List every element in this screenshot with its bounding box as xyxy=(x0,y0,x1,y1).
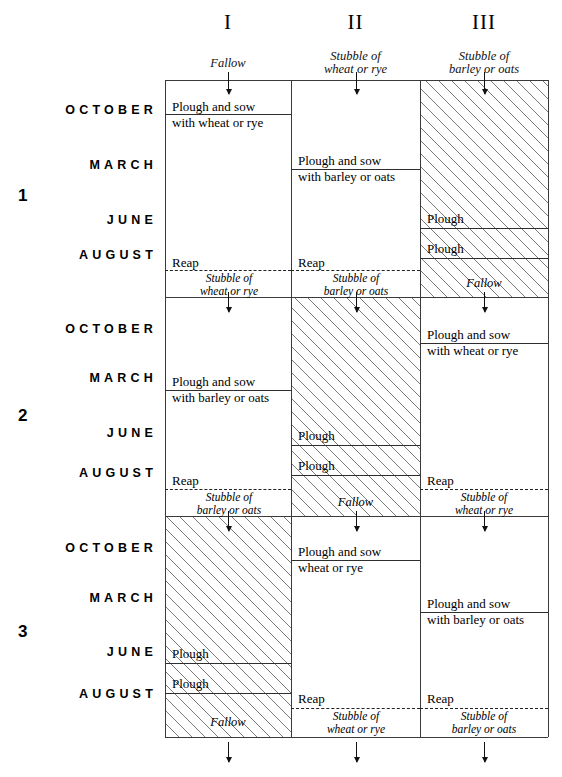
operation-y1-col3-june-plough: Plough xyxy=(427,211,464,226)
operation-y2-col3-october-line2: with wheat or rye xyxy=(427,343,518,359)
reap-dash-y2-col3 xyxy=(420,489,548,490)
operation-y3-col1-june-plough: Plough xyxy=(172,646,209,661)
state-y3-col1-fallow: Fallow xyxy=(165,715,291,730)
fallow-block-y2-col2 xyxy=(291,297,420,516)
operation-y1-col2-reap: Reap xyxy=(298,255,325,270)
rotation-diagram: I II III Fallow Stubble of wheat or rye … xyxy=(0,0,562,777)
column-header-3: III xyxy=(420,10,548,35)
operation-y1-col3-august-plough: Plough xyxy=(427,241,464,256)
operation-y2-col2-june-plough: Plough xyxy=(298,428,335,443)
operation-y2-col3-reap: Reap xyxy=(427,473,454,488)
flow-arrow-bottom-col1 xyxy=(228,742,229,762)
stubble-y3-col3-line1: Stubble of xyxy=(424,710,544,723)
flow-arrow-y1-y2-col3 xyxy=(484,292,485,312)
month-label-y3-august: AUGUST xyxy=(0,687,157,701)
operation-y2-col2-august-plough: Plough xyxy=(298,458,335,473)
column-initial-state-1-line1: Fallow xyxy=(165,57,291,70)
rule-y2-col2-june xyxy=(291,445,420,446)
reap-dash-y1-col2 xyxy=(291,270,420,271)
rule-y3-col2-october xyxy=(291,560,420,561)
operation-y3-col3-march-line1: Plough and sow xyxy=(427,596,524,612)
flow-arrow-y2-y3-col2 xyxy=(356,511,357,531)
flow-arrow-y1-y2-col2 xyxy=(356,292,357,312)
stubble-y2-col1-line1: Stubble of xyxy=(170,491,288,504)
reap-dash-y3-col2 xyxy=(291,708,420,709)
month-label-y2-june: JUNE xyxy=(0,426,157,440)
flow-arrow-y1-y2-col1 xyxy=(228,292,229,312)
month-label-y2-october: OCTOBER xyxy=(0,322,157,336)
column-initial-state-1: Fallow xyxy=(165,57,291,70)
rule-y2-col1-march xyxy=(165,390,291,391)
operation-y2-col1-march-line2: with barley or oats xyxy=(172,390,269,406)
flow-arrow-y2-y3-col3 xyxy=(484,511,485,531)
operation-y3-col2-october-line1: Plough and sow xyxy=(298,544,381,560)
operation-y1-col1-october: Plough and sow with wheat or rye xyxy=(172,99,263,131)
operation-y2-col1-march-line1: Plough and sow xyxy=(172,374,269,390)
stubble-y3-col2-line1: Stubble of xyxy=(296,710,416,723)
operation-y3-col3-march-line2: with barley or oats xyxy=(427,612,524,628)
grid-divider-col2-col3 xyxy=(420,80,421,737)
month-label-y2-august: AUGUST xyxy=(0,466,157,480)
rule-y1-col2-march xyxy=(291,169,420,170)
stubble-y3-col2-line2: wheat or rye xyxy=(296,723,416,736)
stubble-y2-col3-line1: Stubble of xyxy=(424,491,544,504)
month-label-y3-october: OCTOBER xyxy=(0,541,157,555)
operation-y3-col2-october-line2: wheat or rye xyxy=(298,560,381,576)
operation-y1-col1-october-line2: with wheat or rye xyxy=(172,115,263,131)
rule-y1-col3-august xyxy=(420,258,548,259)
stubble-y1-col1: Stubble of wheat or rye xyxy=(170,272,288,297)
operation-y1-col2-march-line1: Plough and sow xyxy=(298,153,395,169)
rule-y1-col3-june xyxy=(420,228,548,229)
stubble-y2-col1: Stubble of barley or oats xyxy=(170,491,288,516)
stubble-y3-col3: Stubble of barley or oats xyxy=(424,710,544,735)
month-label-y1-august: AUGUST xyxy=(0,248,157,262)
rule-y3-col3-march xyxy=(420,612,548,613)
flow-arrow-bottom-col2 xyxy=(356,742,357,762)
year-number-1: 1 xyxy=(18,186,27,206)
grid-left-border xyxy=(165,80,166,737)
fallow-block-y1-col3 xyxy=(420,80,548,297)
flow-arrow-bottom-col3 xyxy=(484,742,485,762)
column-header-1: I xyxy=(165,10,291,35)
operation-y1-col1-october-line1: Plough and sow xyxy=(172,99,263,115)
rule-y2-col3-october xyxy=(420,343,548,344)
grid-divider-col1-col2 xyxy=(291,80,292,737)
stubble-y1-col1-line2: wheat or rye xyxy=(170,285,288,298)
operation-y2-col3-october-line1: Plough and sow xyxy=(427,327,518,343)
year-number-2: 2 xyxy=(18,406,27,426)
flow-arrow-y2-y3-col1 xyxy=(228,511,229,531)
state-y1-col3-fallow: Fallow xyxy=(420,276,548,291)
operation-y3-col1-august-plough: Plough xyxy=(172,676,209,691)
fallow-block-y3-col1 xyxy=(165,516,291,737)
stubble-y1-col2-line1: Stubble of xyxy=(296,272,416,285)
flow-arrow-top-col2 xyxy=(356,72,357,94)
stubble-y3-col2: Stubble of wheat or rye xyxy=(296,710,416,735)
stubble-y3-col3-line2: barley or oats xyxy=(424,723,544,736)
stubble-y1-col1-line1: Stubble of xyxy=(170,272,288,285)
month-label-y3-june: JUNE xyxy=(0,645,157,659)
month-label-y1-june: JUNE xyxy=(0,213,157,227)
grid-bottom-border xyxy=(165,737,548,738)
operation-y3-col2-reap: Reap xyxy=(298,691,325,706)
reap-dash-y3-col3 xyxy=(420,708,548,709)
month-label-y2-march: MARCH xyxy=(0,371,157,385)
year-number-3: 3 xyxy=(18,622,27,642)
rule-y3-col1-august xyxy=(165,693,291,694)
column-header-2: II xyxy=(291,10,420,35)
rule-y2-col2-august xyxy=(291,475,420,476)
month-label-y1-march: MARCH xyxy=(0,158,157,172)
flow-arrow-top-col3 xyxy=(484,72,485,94)
stubble-y2-col1-line2: barley or oats xyxy=(170,504,288,517)
operation-y3-col3-reap: Reap xyxy=(427,691,454,706)
rule-y3-col1-june xyxy=(165,663,291,664)
operation-y1-col1-reap: Reap xyxy=(172,255,199,270)
grid-right-border xyxy=(548,80,549,737)
rule-y1-col1-october xyxy=(165,114,291,115)
month-label-y3-march: MARCH xyxy=(0,591,157,605)
state-y2-col2-fallow: Fallow xyxy=(291,495,420,510)
reap-dash-y1-col1 xyxy=(165,270,291,271)
flow-arrow-top-col1 xyxy=(228,72,229,94)
operation-y1-col2-march-line2: with barley or oats xyxy=(298,169,395,185)
operation-y2-col1-reap: Reap xyxy=(172,473,199,488)
reap-dash-y2-col1 xyxy=(165,489,291,490)
